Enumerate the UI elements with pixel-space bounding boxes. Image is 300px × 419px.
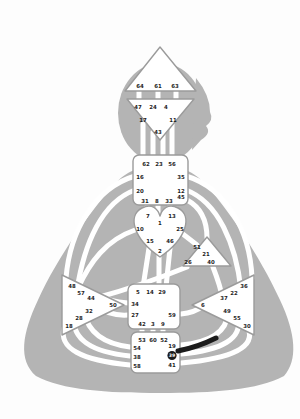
gate-55: 55: [233, 315, 241, 321]
gate-29: 29: [158, 289, 166, 295]
gate-31: 31: [141, 198, 149, 204]
gate-42: 42: [138, 321, 146, 327]
gate-13: 13: [168, 213, 176, 219]
gate-22: 22: [230, 290, 238, 296]
gate-9: 9: [161, 321, 165, 327]
gate-62: 62: [142, 161, 150, 167]
gate-36: 36: [240, 283, 248, 289]
gate-40: 40: [207, 259, 215, 265]
gate-1: 1: [158, 220, 162, 226]
gate-30: 30: [243, 323, 251, 329]
gate-11: 11: [169, 117, 177, 123]
gate-60: 60: [149, 337, 157, 343]
gate-35: 35: [177, 174, 185, 180]
gate-41: 41: [168, 362, 176, 368]
gate-50: 50: [109, 302, 117, 308]
gate-52: 52: [160, 337, 168, 343]
gate-46: 46: [166, 238, 174, 244]
gate-58: 58: [133, 363, 141, 369]
gate-37: 37: [220, 295, 228, 301]
gate-59: 59: [168, 312, 176, 318]
gate-14: 14: [146, 289, 154, 295]
gate-23: 23: [155, 161, 163, 167]
gate-53: 53: [138, 337, 146, 343]
gate-56: 56: [168, 161, 176, 167]
bodygraph-svg: 64 61 63 47 24 4 17 11 43 62 23 56 16 35…: [0, 0, 300, 419]
gate-32: 32: [85, 308, 93, 314]
gate-2: 2: [158, 248, 162, 254]
gate-38: 38: [133, 354, 141, 360]
gate-39: 39: [169, 353, 175, 358]
gate-27: 27: [131, 312, 139, 318]
gate-20: 20: [136, 188, 144, 194]
gate-17: 17: [139, 117, 147, 123]
gate-4: 4: [164, 104, 168, 110]
gate-43: 43: [154, 129, 162, 135]
gate-28: 28: [75, 315, 83, 321]
gate-7: 7: [146, 213, 150, 219]
gate-5: 5: [136, 289, 140, 295]
gate-45: 45: [177, 194, 185, 200]
gate-48: 48: [68, 283, 76, 289]
gate-49: 49: [223, 308, 231, 314]
gate-8: 8: [155, 198, 159, 204]
gate-10: 10: [136, 226, 144, 232]
gate-57: 57: [77, 290, 85, 296]
gate-15: 15: [146, 238, 154, 244]
gate-3: 3: [151, 321, 155, 327]
gate-47: 47: [134, 104, 142, 110]
gate-54: 54: [133, 345, 141, 351]
gate-24: 24: [149, 104, 157, 110]
gate-6: 6: [201, 302, 205, 308]
gate-18: 18: [65, 323, 73, 329]
gate-33: 33: [165, 198, 173, 204]
gate-21: 21: [202, 251, 210, 257]
gate-51: 51: [193, 244, 201, 250]
gate-63: 63: [171, 83, 179, 89]
gate-64: 64: [136, 83, 144, 89]
gate-61: 61: [154, 83, 162, 89]
gate-19: 19: [168, 343, 176, 349]
bodygraph: 64 61 63 47 24 4 17 11 43 62 23 56 16 35…: [0, 0, 300, 419]
gate-25: 25: [176, 226, 184, 232]
gate-34: 34: [131, 301, 139, 307]
gate-44: 44: [87, 295, 95, 301]
gate-16: 16: [136, 174, 144, 180]
gate-26: 26: [184, 259, 192, 265]
